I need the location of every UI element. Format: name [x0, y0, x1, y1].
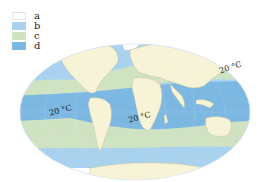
map-legend: a b c d	[12, 11, 40, 51]
legend-label-d: d	[34, 41, 40, 51]
world-map	[0, 0, 270, 182]
legend-swatch-d	[12, 42, 26, 50]
legend-swatch-a	[12, 12, 26, 20]
legend-swatch-b	[12, 22, 26, 30]
legend-swatch-c	[12, 32, 26, 40]
legend-item-d: d	[12, 41, 40, 51]
